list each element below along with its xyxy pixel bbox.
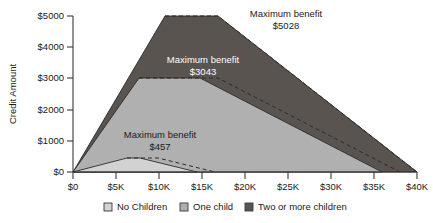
annotation-label: Maximum benefit: [124, 129, 197, 140]
x-tick-label: $5K: [108, 181, 126, 192]
x-tick-label: $0: [68, 181, 79, 192]
annotation-value: $457: [149, 141, 170, 152]
legend-swatch-two-or-more-children: [245, 203, 253, 211]
chart-legend: No Children One child Two or more childr…: [104, 201, 347, 212]
x-tick-label: $20K: [234, 181, 257, 192]
x-tick-label: $40K: [406, 181, 429, 192]
legend-label-one-child: One child: [193, 201, 233, 212]
legend-label-no-children: No Children: [117, 201, 167, 212]
y-tick-label: $4000: [38, 41, 64, 52]
y-tick-label: $3000: [38, 72, 64, 83]
x-tick-labels: $0 $5K $10K $15K $20K $25K $30K $35K $40…: [68, 181, 429, 192]
x-ticks: [73, 172, 417, 179]
annotation-value: $3043: [190, 66, 216, 77]
x-tick-label: $35K: [363, 181, 386, 192]
x-tick-label: $25K: [277, 181, 300, 192]
annotation-two-or-more-children: Maximum benefit $5028: [250, 8, 323, 31]
x-tick-label: $10K: [148, 181, 171, 192]
legend-item-two-or-more-children[interactable]: Two or more children: [245, 201, 347, 212]
y-axis-title: Credit Amount: [7, 64, 18, 125]
chart-svg: $5000 $4000 $3000 $2000 $1000 $0 $0 $5K …: [0, 0, 433, 223]
legend-item-no-children[interactable]: No Children: [104, 201, 167, 212]
y-tick-label: $1000: [38, 135, 64, 146]
eitc-credit-amount-chart: $5000 $4000 $3000 $2000 $1000 $0 $0 $5K …: [0, 0, 433, 223]
y-tick-label: $0: [53, 166, 64, 177]
x-tick-label: $15K: [191, 181, 214, 192]
plot-areas: [73, 16, 417, 172]
y-tick-labels: $5000 $4000 $3000 $2000 $1000 $0: [38, 10, 64, 177]
legend-swatch-no-children: [104, 203, 112, 211]
y-ticks: [67, 16, 73, 172]
legend-item-one-child[interactable]: One child: [180, 201, 233, 212]
y-tick-label: $2000: [38, 104, 64, 115]
legend-label-two-or-more-children: Two or more children: [258, 201, 347, 212]
y-tick-label: $5000: [38, 10, 64, 21]
x-tick-label: $30K: [320, 181, 343, 192]
annotation-value: $5028: [273, 20, 299, 31]
legend-swatch-one-child: [180, 203, 188, 211]
annotation-label: Maximum benefit: [250, 8, 323, 19]
annotation-label: Maximum benefit: [167, 54, 240, 65]
